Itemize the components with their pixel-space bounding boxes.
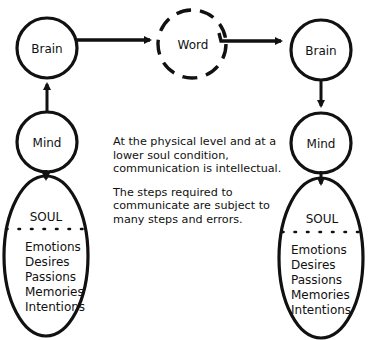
list-item: Memories [291, 288, 351, 303]
right-soul-title: SOUL [306, 212, 339, 226]
list-item: Emotions [291, 243, 351, 258]
word-label: Word [178, 38, 209, 52]
right-mind-label: Mind [307, 137, 336, 151]
left-mind-label: Mind [33, 136, 62, 150]
list-item: Passions [25, 270, 85, 285]
right-soul-list: Emotions Desires Passions Memories Inten… [291, 243, 351, 318]
list-item: Intentions [25, 300, 85, 315]
paragraph-physical-level: At the physical level and at a lower sou… [113, 135, 293, 176]
paragraph-steps: The steps required to communicate are su… [113, 186, 293, 227]
list-item: Memories [25, 285, 85, 300]
left-soul-title: SOUL [30, 210, 63, 224]
right-brain-label: Brain [305, 44, 336, 58]
list-item: Desires [291, 258, 351, 273]
list-item: Intentions [291, 303, 351, 318]
left-soul-list: Emotions Desires Passions Memories Inten… [25, 240, 85, 315]
description-text: At the physical level and at a lower sou… [113, 135, 293, 236]
list-item: Desires [25, 255, 85, 270]
arrow-word-to-brain [219, 33, 281, 41]
list-item: Passions [291, 273, 351, 288]
list-item: Emotions [25, 240, 85, 255]
left-brain-label: Brain [31, 42, 62, 56]
